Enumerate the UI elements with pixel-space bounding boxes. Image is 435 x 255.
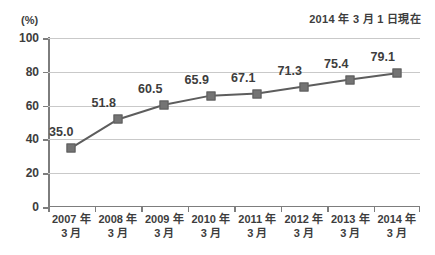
x-axis-category-month: 3 月 xyxy=(145,226,184,240)
x-axis-category-label: 2010 年3 月 xyxy=(191,212,230,240)
data-point-marker xyxy=(253,89,262,98)
chart-date-annotation: 2014 年 3 月 1 日現在 xyxy=(309,10,421,26)
data-point-value-label: 71.3 xyxy=(278,64,302,78)
x-axis-category-year: 2008 年 xyxy=(98,213,137,225)
x-axis-category-label: 2014 年3 月 xyxy=(377,212,416,240)
x-axis-tick xyxy=(327,207,329,212)
x-axis-category-year: 2012 年 xyxy=(284,213,323,225)
data-point-value-label: 51.8 xyxy=(92,96,116,110)
x-axis-category-label: 2013 年3 月 xyxy=(331,212,370,240)
y-axis-tick-label: 0 xyxy=(0,200,39,214)
data-point-value-label: 67.1 xyxy=(231,71,255,85)
data-point-marker xyxy=(160,100,169,109)
x-axis-category-year: 2010 年 xyxy=(191,213,230,225)
data-point-value-label: 35.0 xyxy=(49,125,73,139)
data-point-marker xyxy=(392,69,401,78)
x-axis-tick xyxy=(188,207,190,212)
data-point-marker xyxy=(299,82,308,91)
x-axis-tick xyxy=(48,207,50,212)
x-axis-category-month: 3 月 xyxy=(98,226,137,240)
x-axis-category-year: 2013 年 xyxy=(331,213,370,225)
x-axis-tick xyxy=(234,207,236,212)
x-axis-category-label: 2007 年3 月 xyxy=(52,212,91,240)
y-axis-tick-label: 80 xyxy=(0,65,39,79)
line-series-path xyxy=(48,38,420,207)
x-axis-category-month: 3 月 xyxy=(238,226,276,240)
y-axis-unit-label: (%) xyxy=(21,14,38,26)
y-axis-tick-label: 40 xyxy=(0,132,39,146)
y-axis-tick-label: 60 xyxy=(0,99,39,113)
x-axis-category-month: 3 月 xyxy=(377,226,416,240)
x-axis-category-label: 2011 年3 月 xyxy=(238,212,276,240)
x-axis-category-month: 3 月 xyxy=(52,226,91,240)
x-axis-category-year: 2011 年 xyxy=(238,213,276,225)
data-point-marker xyxy=(67,143,76,152)
y-axis-tick-label: 20 xyxy=(0,166,39,180)
x-axis-tick xyxy=(419,207,421,212)
x-axis-tick xyxy=(374,207,376,212)
x-axis-category-year: 2014 年 xyxy=(377,213,416,225)
x-axis-category-year: 2009 年 xyxy=(145,213,184,225)
data-point-marker xyxy=(206,91,215,100)
data-point-value-label: 65.9 xyxy=(185,73,209,87)
data-point-value-label: 79.1 xyxy=(371,50,395,64)
x-axis-tick xyxy=(141,207,143,212)
chart-container: (%) 2014 年 3 月 1 日現在 35.051.860.565.967.… xyxy=(0,0,435,255)
x-axis-tick xyxy=(281,207,283,212)
x-axis-category-month: 3 月 xyxy=(284,226,323,240)
x-axis-tick xyxy=(95,207,97,212)
data-point-marker xyxy=(113,115,122,124)
x-axis-category-label: 2008 年3 月 xyxy=(98,212,137,240)
data-point-marker xyxy=(346,75,355,84)
x-axis-category-month: 3 月 xyxy=(191,226,230,240)
x-axis-category-month: 3 月 xyxy=(331,226,370,240)
x-axis-category-label: 2012 年3 月 xyxy=(284,212,323,240)
y-axis-tick-label: 100 xyxy=(0,31,39,45)
data-point-value-label: 75.4 xyxy=(324,57,348,71)
data-point-value-label: 60.5 xyxy=(138,82,162,96)
x-axis-category-label: 2009 年3 月 xyxy=(145,212,184,240)
plot-area: 35.051.860.565.967.171.375.479.1 xyxy=(48,38,420,207)
x-axis-category-year: 2007 年 xyxy=(52,213,91,225)
